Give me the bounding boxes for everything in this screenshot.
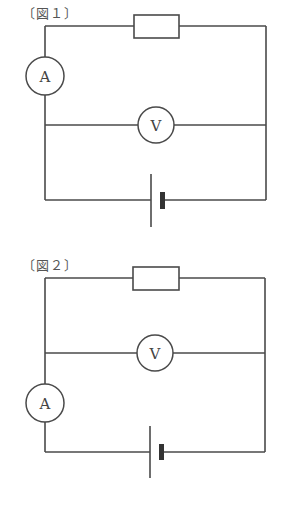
ammeter-label: A <box>39 395 51 413</box>
voltmeter-icon: V <box>137 335 173 371</box>
resistor <box>133 267 179 290</box>
circuit-diagram-2: V A <box>0 0 295 525</box>
figure-2: 〔図２〕 V A <box>0 0 295 525</box>
ammeter-icon: A <box>26 384 64 422</box>
battery-negative-plate <box>159 444 164 460</box>
voltmeter-label: V <box>149 345 162 363</box>
